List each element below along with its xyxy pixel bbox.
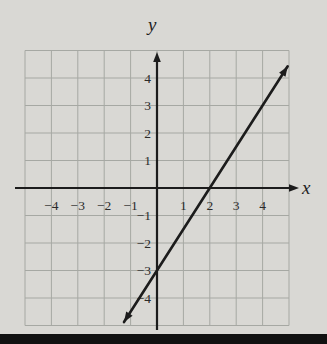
x-tick-label: −1: [123, 198, 137, 213]
page-bottom-rule: [0, 334, 327, 344]
y-axis-label: y: [148, 15, 156, 34]
coordinate-plane: −4−3−2−11234−4−3−2−11234: [0, 0, 327, 344]
x-tick-label: 4: [259, 198, 266, 213]
textbook-graph-page: −4−3−2−11234−4−3−2−11234 y x: [0, 0, 327, 344]
y-tick-label: −2: [137, 236, 151, 251]
x-tick-label: −4: [44, 198, 59, 213]
line-arrowhead: [124, 312, 133, 322]
x-axis-label: x: [302, 178, 310, 197]
y-tick-label: −1: [137, 208, 151, 223]
y-tick-label: −3: [137, 263, 152, 278]
y-tick-label: 1: [144, 153, 151, 168]
x-tick-label: −2: [97, 198, 111, 213]
x-tick-label: −3: [71, 198, 86, 213]
x-tick-label: 3: [233, 198, 240, 213]
x-tick-label: 1: [180, 198, 187, 213]
y-tick-label: 2: [144, 126, 151, 141]
x-axis-arrowhead: [289, 184, 299, 192]
y-tick-label: 4: [144, 71, 151, 86]
x-tick-label: 2: [206, 198, 213, 213]
line-arrowhead: [279, 66, 288, 76]
y-axis-arrowhead: [153, 52, 161, 62]
y-tick-label: 3: [144, 98, 151, 113]
